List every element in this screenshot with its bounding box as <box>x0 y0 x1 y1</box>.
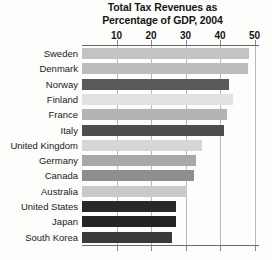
y-label-germany: Germany <box>0 155 78 166</box>
bar-row <box>82 153 258 168</box>
bar-united-kingdom <box>82 140 202 151</box>
bar-row <box>82 184 258 199</box>
x-axis-tick-labels: 1020304050 <box>0 30 272 43</box>
tick-mark-bottom-40 <box>220 246 221 251</box>
axis-bottom-line <box>82 245 259 246</box>
bar-united-states <box>82 201 176 212</box>
y-label-finland: Finland <box>0 94 78 105</box>
bar-row <box>82 168 258 183</box>
plot-area <box>82 46 258 245</box>
bar-sweden <box>82 48 249 59</box>
tick-mark-top-50 <box>255 40 256 45</box>
tick-mark-bottom-30 <box>186 246 187 251</box>
bar-row <box>82 230 258 245</box>
y-label-australia: Australia <box>0 186 78 197</box>
bar-row <box>82 123 258 138</box>
bar-row <box>82 46 258 61</box>
bar-chart: Total Tax Revenues as Percentage of GDP,… <box>0 0 272 260</box>
bar-row <box>82 92 258 107</box>
bar-row <box>82 107 258 122</box>
bar-row <box>82 77 258 92</box>
bar-south-korea <box>82 232 172 243</box>
y-label-sweden: Sweden <box>0 48 78 59</box>
y-axis-category-labels: SwedenDenmarkNorwayFinlandFranceItalyUni… <box>0 46 78 245</box>
bar-italy <box>82 125 224 136</box>
tick-mark-top-40 <box>220 40 221 45</box>
bar-japan <box>82 216 176 227</box>
bar-row <box>82 61 258 76</box>
bar-row <box>82 214 258 229</box>
y-label-south-korea: South Korea <box>0 232 78 243</box>
tick-mark-top-20 <box>151 40 152 45</box>
tick-mark-bottom-50 <box>255 246 256 251</box>
y-label-france: France <box>0 109 78 120</box>
tick-mark-bottom-20 <box>151 246 152 251</box>
bar-norway <box>82 79 229 90</box>
bar-canada <box>82 170 194 181</box>
y-label-united-states: United States <box>0 201 78 212</box>
bar-germany <box>82 155 196 166</box>
bar-australia <box>82 186 187 197</box>
y-label-united-kingdom: United Kingdom <box>0 140 78 151</box>
y-label-canada: Canada <box>0 170 78 181</box>
y-label-italy: Italy <box>0 125 78 136</box>
bar-france <box>82 109 227 120</box>
chart-title-line-2: Percentage of GDP, 2004 <box>60 14 265 27</box>
bar-row <box>82 138 258 153</box>
chart-title-line-1: Total Tax Revenues as <box>60 1 265 14</box>
bar-finland <box>82 94 233 105</box>
y-label-norway: Norway <box>0 79 78 90</box>
y-label-japan: Japan <box>0 216 78 227</box>
chart-title: Total Tax Revenues as Percentage of GDP,… <box>60 1 265 27</box>
tick-mark-bottom-10 <box>117 246 118 251</box>
y-label-denmark: Denmark <box>0 63 78 74</box>
bar-row <box>82 199 258 214</box>
tick-mark-top-10 <box>117 40 118 45</box>
tick-mark-top-30 <box>186 40 187 45</box>
bar-denmark <box>82 63 248 74</box>
